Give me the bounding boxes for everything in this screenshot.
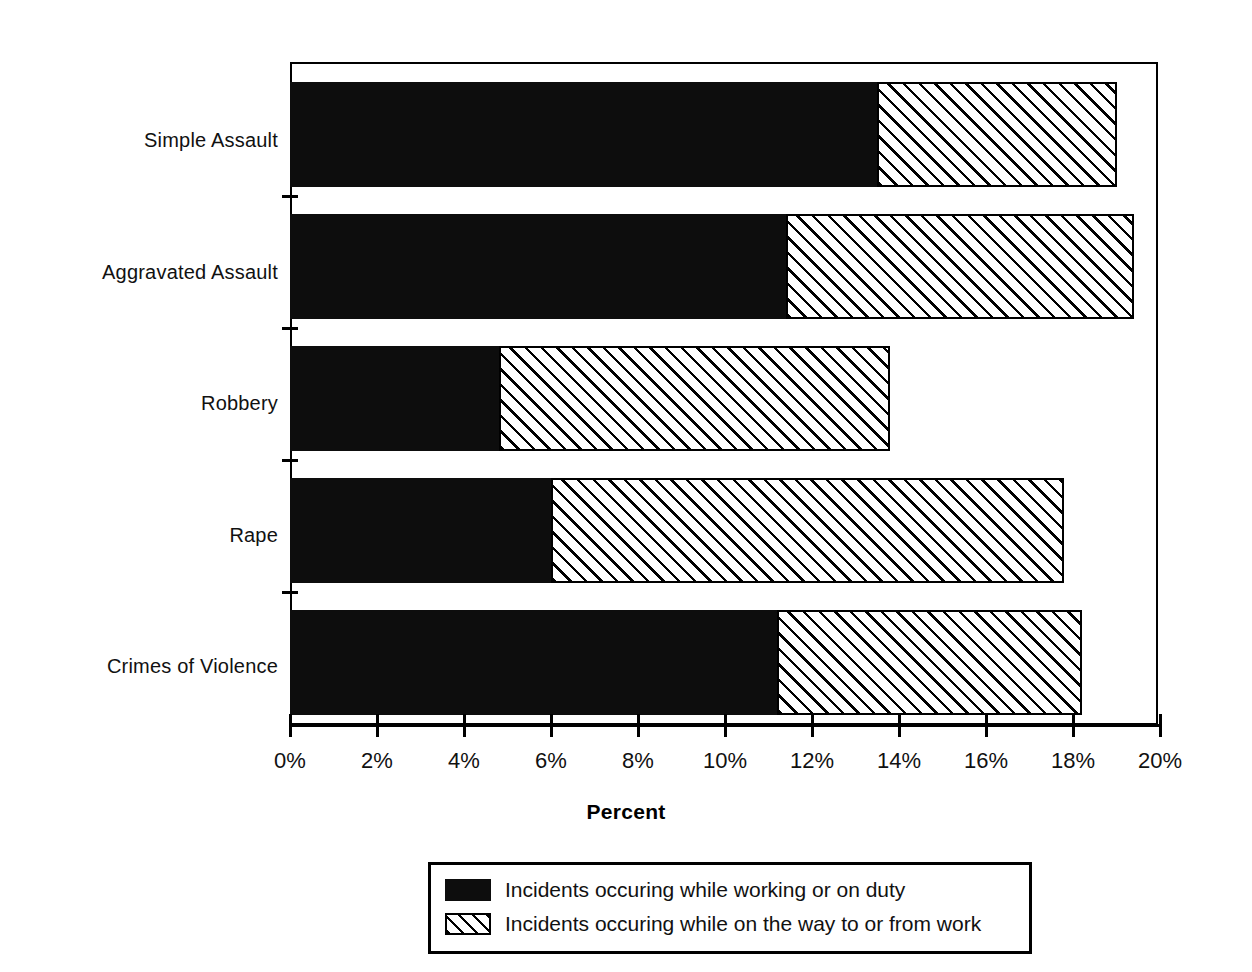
legend-label-working: Incidents occuring while working or on d… <box>505 878 905 902</box>
bar-segment-working-robbery <box>290 346 499 451</box>
bar-segment-commute-aggravated-assault <box>786 214 1134 319</box>
bar-segment-working-simple-assault <box>290 82 877 187</box>
x-axis-tick-0 <box>289 714 292 737</box>
y-label-aggravated-assault: Aggravated Assault <box>0 262 278 282</box>
y-label-crimes-of-violence: Crimes of Violence <box>0 656 278 676</box>
chart-legend: Incidents occuring while working or on d… <box>428 862 1032 954</box>
x-axis-tick-label-10: 20% <box>1120 748 1200 774</box>
x-axis-tick-6 <box>811 714 814 737</box>
x-axis-tick-1 <box>376 714 379 737</box>
y-label-simple-assault: Simple Assault <box>0 130 278 150</box>
bar-segment-commute-crimes-of-violence <box>777 610 1082 715</box>
x-axis-tick-label-3: 6% <box>511 748 591 774</box>
y-label-robbery: Robbery <box>0 393 278 413</box>
x-axis-tick-label-7: 14% <box>859 748 939 774</box>
x-axis-title: Percent <box>0 800 1252 824</box>
bar-segment-commute-simple-assault <box>877 82 1116 187</box>
stacked-bar-chart: Simple Assault Aggravated Assault Robber… <box>0 0 1252 972</box>
x-axis-tick-7 <box>898 714 901 737</box>
bar-segment-working-crimes-of-violence <box>290 610 777 715</box>
bars-layer <box>290 62 1158 725</box>
x-axis-tick-label-4: 8% <box>598 748 678 774</box>
legend-swatch-solid-icon <box>445 879 491 901</box>
x-axis-tick-label-5: 10% <box>685 748 765 774</box>
x-axis-tick-3 <box>550 714 553 737</box>
x-axis-tick-label-1: 2% <box>337 748 417 774</box>
legend-item-commute: Incidents occuring while on the way to o… <box>445 907 1015 941</box>
legend-swatch-hatch-icon <box>445 913 491 935</box>
x-axis-tick-5 <box>724 714 727 737</box>
bar-segment-commute-rape <box>551 478 1064 583</box>
x-axis-tick-label-9: 18% <box>1033 748 1113 774</box>
bar-segment-working-rape <box>290 478 551 583</box>
x-axis-tick-10 <box>1159 714 1162 737</box>
x-axis-tick-label-0: 0% <box>250 748 330 774</box>
x-axis-tick-9 <box>1072 714 1075 737</box>
bar-segment-working-aggravated-assault <box>290 214 786 319</box>
legend-item-working: Incidents occuring while working or on d… <box>445 873 1015 907</box>
x-axis-tick-label-2: 4% <box>424 748 504 774</box>
y-axis-category-labels: Simple Assault Aggravated Assault Robber… <box>0 62 278 725</box>
x-axis-tick-2 <box>463 714 466 737</box>
x-axis-tick-4 <box>637 714 640 737</box>
bar-segment-commute-robbery <box>499 346 891 451</box>
x-axis-tick-label-6: 12% <box>772 748 852 774</box>
legend-label-commute: Incidents occuring while on the way to o… <box>505 912 981 936</box>
y-label-rape: Rape <box>0 525 278 545</box>
x-axis-tick-8 <box>985 714 988 737</box>
x-axis-tick-label-8: 16% <box>946 748 1026 774</box>
